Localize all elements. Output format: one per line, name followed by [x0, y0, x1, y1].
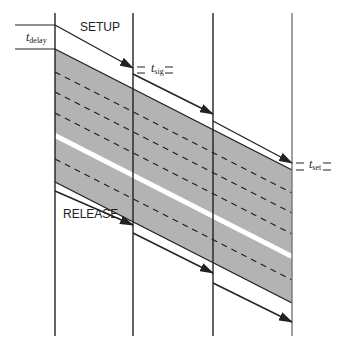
release-label: RELEASE — [63, 207, 118, 221]
setup-label: SETUP — [80, 20, 120, 34]
t-delay-label: tdelay — [26, 30, 47, 45]
t-set-marker: tset — [296, 157, 331, 172]
signal-band — [55, 49, 292, 303]
timing-diagram: tdelay tsig tset SETUP RELEASE — [0, 0, 347, 349]
t-sig-marker: tsig — [137, 61, 173, 76]
t-sig-label: tsig — [151, 61, 164, 76]
t-delay-marker: tdelay — [15, 25, 55, 49]
t-set-label: tset — [309, 157, 322, 172]
